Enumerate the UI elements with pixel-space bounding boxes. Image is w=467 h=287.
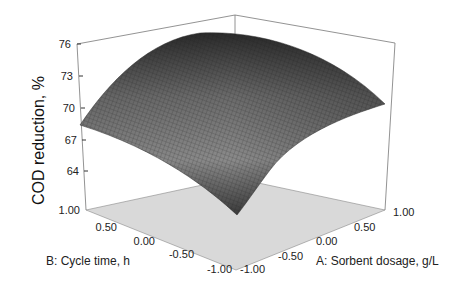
b-axis-title: B: Cycle time, h <box>46 254 130 268</box>
z-tick: 64 <box>67 165 79 177</box>
z-axis-title: COD reduction, % <box>30 76 47 205</box>
surface-plot: 76 73 70 67 64 COD reduction, % 1.00 0.5… <box>0 0 467 287</box>
b-tick: 0.00 <box>134 235 155 247</box>
a-tick: -1.00 <box>240 263 265 275</box>
b-tick: -0.50 <box>169 248 194 260</box>
b-tick: 1.00 <box>59 204 80 216</box>
b-tick: 0.50 <box>96 221 117 233</box>
a-tick: 0.00 <box>316 235 337 247</box>
a-tick: -0.50 <box>278 250 303 262</box>
response-surface <box>80 33 385 215</box>
a-tick: 1.00 <box>393 206 414 218</box>
z-tick: 76 <box>59 38 71 50</box>
a-tick: 0.50 <box>354 221 375 233</box>
z-tick: 70 <box>63 102 75 114</box>
z-axis: 76 73 70 67 64 COD reduction, % <box>30 38 88 205</box>
b-tick: -1.00 <box>207 263 232 275</box>
z-tick: 67 <box>65 134 77 146</box>
a-axis-title: A: Sorbent dosage, g/L <box>316 254 439 268</box>
z-tick: 73 <box>61 70 73 82</box>
